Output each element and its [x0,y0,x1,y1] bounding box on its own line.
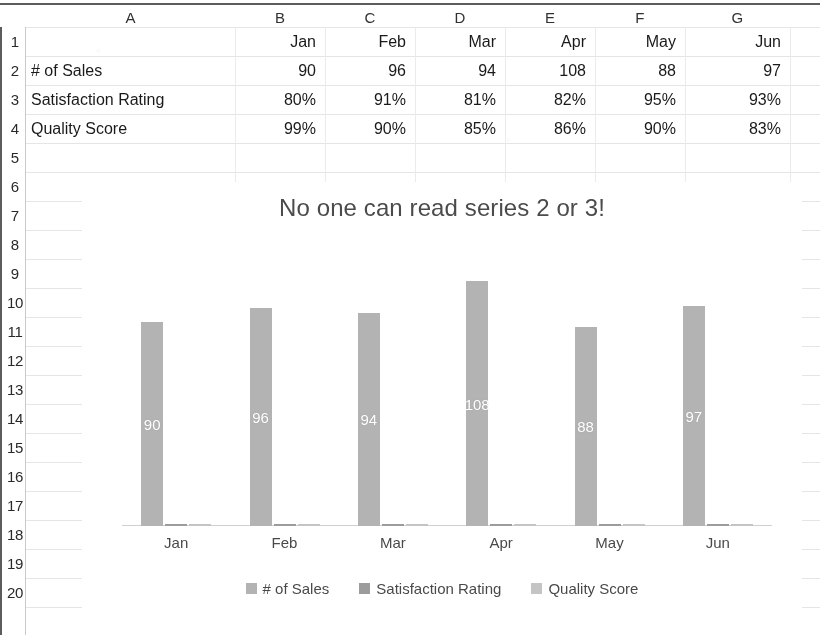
bar-may-series3[interactable] [623,524,645,526]
column-header-d[interactable]: D [415,5,505,29]
cell-d1[interactable]: Mar [415,27,505,56]
column-header-b[interactable]: B [235,5,325,29]
legend-label: Quality Score [548,580,638,597]
legend-label: # of Sales [263,580,330,597]
row-header-7[interactable]: 7 [2,201,28,230]
gridline-horizontal [26,143,820,144]
cell-c2[interactable]: 96 [325,56,415,85]
category-label-mar: Mar [339,534,447,551]
bar-feb-series2[interactable] [274,524,296,526]
bar-jan-series2[interactable] [165,524,187,526]
bar-group: 90 [141,254,211,526]
cell-b4[interactable]: 99% [235,114,325,143]
bar-jun-series2[interactable] [707,524,729,526]
cell-g1[interactable]: Jun [685,27,790,56]
row-header-15[interactable]: 15 [2,433,28,462]
row-header-17[interactable]: 17 [2,491,28,520]
legend-swatch-icon [246,583,257,594]
row-header-14[interactable]: 14 [2,404,28,433]
row-header-16[interactable]: 16 [2,462,28,491]
legend-swatch-icon [359,583,370,594]
legend-item-series3[interactable]: Quality Score [531,580,638,597]
bar-chart[interactable]: No one can read series 2 or 3! 909694108… [82,182,802,630]
plot-area: 9096941088897 [122,254,772,526]
cell-c4[interactable]: 90% [325,114,415,143]
cell-g4[interactable]: 83% [685,114,790,143]
row-header-18[interactable]: 18 [2,520,28,549]
cell-b2[interactable]: 90 [235,56,325,85]
category-axis-line [122,525,772,526]
column-header-f[interactable]: F [595,5,685,29]
bar-feb-series3[interactable] [298,524,320,526]
legend-swatch-icon [531,583,542,594]
cell-d2[interactable]: 94 [415,56,505,85]
row-header-12[interactable]: 12 [2,346,28,375]
category-label-apr: Apr [447,534,555,551]
cell-a3[interactable]: Satisfaction Rating [26,85,235,114]
row-header-10[interactable]: 10 [2,288,28,317]
cell-d3[interactable]: 81% [415,85,505,114]
cell-d4[interactable]: 85% [415,114,505,143]
bar-data-label: 96 [244,409,278,426]
bar-mar-series2[interactable] [382,524,404,526]
bar-data-label: 90 [135,416,169,433]
bar-apr-series2[interactable] [490,524,512,526]
category-label-may: May [555,534,663,551]
bar-group: 88 [575,254,645,526]
chart-title: No one can read series 2 or 3! [82,194,802,222]
cell-e4[interactable]: 86% [505,114,595,143]
bar-may-series2[interactable] [599,524,621,526]
bar-data-label: 94 [352,411,386,428]
column-header-row: ABCDEFG [0,3,820,27]
row-header-3[interactable]: 3 [2,85,28,114]
bar-group: 97 [683,254,753,526]
cell-e3[interactable]: 82% [505,85,595,114]
column-header-g[interactable]: G [685,5,790,29]
row-header-11[interactable]: 11 [2,317,28,346]
cell-a2[interactable]: # of Sales [26,56,235,85]
cell-f2[interactable]: 88 [595,56,685,85]
bar-data-label: 97 [677,408,711,425]
category-label-jun: Jun [664,534,772,551]
row-header-column: 1234567891011121314151617181920 [0,27,26,635]
cell-f4[interactable]: 90% [595,114,685,143]
cell-c1[interactable]: Feb [325,27,415,56]
cell-f1[interactable]: May [595,27,685,56]
legend-item-series1[interactable]: # of Sales [246,580,330,597]
row-header-13[interactable]: 13 [2,375,28,404]
bar-group: 96 [250,254,320,526]
bar-jun-series3[interactable] [731,524,753,526]
legend-label: Satisfaction Rating [376,580,501,597]
spreadsheet-screenshot: ABCDEFG 1234567891011121314151617181920 … [0,0,820,635]
cell-g3[interactable]: 93% [685,85,790,114]
category-label-jan: Jan [122,534,230,551]
cell-b3[interactable]: 80% [235,85,325,114]
row-header-1[interactable]: 1 [2,27,28,56]
chart-legend[interactable]: # of SalesSatisfaction RatingQuality Sco… [82,580,802,597]
cell-f3[interactable]: 95% [595,85,685,114]
row-header-8[interactable]: 8 [2,230,28,259]
bar-jan-series3[interactable] [189,524,211,526]
row-header-19[interactable]: 19 [2,549,28,578]
cell-e2[interactable]: 108 [505,56,595,85]
cell-g2[interactable]: 97 [685,56,790,85]
row-header-9[interactable]: 9 [2,259,28,288]
gridline-horizontal [26,172,820,173]
cell-b1[interactable]: Jan [235,27,325,56]
legend-item-series2[interactable]: Satisfaction Rating [359,580,501,597]
bar-data-label: 88 [569,418,603,435]
bar-data-label: 108 [460,396,494,413]
row-header-2[interactable]: 2 [2,56,28,85]
row-header-5[interactable]: 5 [2,143,28,172]
column-header-c[interactable]: C [325,5,415,29]
bar-apr-series3[interactable] [514,524,536,526]
cell-a4[interactable]: Quality Score [26,114,235,143]
column-header-a[interactable]: A [26,5,235,29]
bar-mar-series3[interactable] [406,524,428,526]
column-header-e[interactable]: E [505,5,595,29]
cell-c3[interactable]: 91% [325,85,415,114]
row-header-20[interactable]: 20 [2,578,28,607]
cell-e1[interactable]: Apr [505,27,595,56]
row-header-6[interactable]: 6 [2,172,28,201]
row-header-4[interactable]: 4 [2,114,28,143]
